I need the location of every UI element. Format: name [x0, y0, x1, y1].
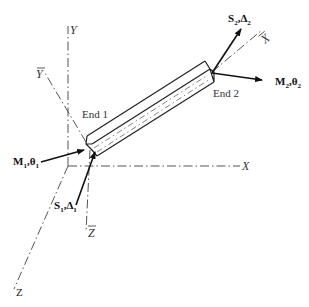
- end-2-moment-label: M2,θ2: [275, 75, 301, 90]
- end-2-moment-arrow: [212, 73, 262, 80]
- end-1-force-label: S1,Δ1: [54, 199, 77, 214]
- local-y-label: Y: [36, 67, 45, 81]
- end-1-label: End 1: [82, 108, 108, 120]
- end-2-force-label: S2,Δ2: [228, 12, 251, 27]
- local-z-label: Z: [88, 226, 96, 240]
- local-z-axis: [86, 150, 90, 232]
- end-2-force-arrow: [212, 29, 241, 73]
- end-1-force-arrow: [76, 152, 95, 205]
- global-x-label: X: [241, 159, 250, 173]
- svg-text:Y: Y: [36, 67, 44, 81]
- end-1-moment-label: M1,θ1: [13, 155, 39, 170]
- global-z-axis: [14, 166, 68, 289]
- global-z-label: Z: [16, 286, 23, 298]
- svg-text:Z: Z: [88, 226, 95, 240]
- local-x-label: X: [257, 30, 273, 47]
- global-y-label: Y: [70, 23, 78, 37]
- local-y-axis: [45, 73, 86, 142]
- global-axes: Y X Z: [14, 23, 250, 298]
- end-2-label: End 2: [213, 87, 239, 99]
- beam-diagram: Y X Z Y Z X En: [0, 0, 309, 307]
- svg-text:X: X: [257, 30, 273, 47]
- end-1-moment-arrow: [41, 150, 84, 162]
